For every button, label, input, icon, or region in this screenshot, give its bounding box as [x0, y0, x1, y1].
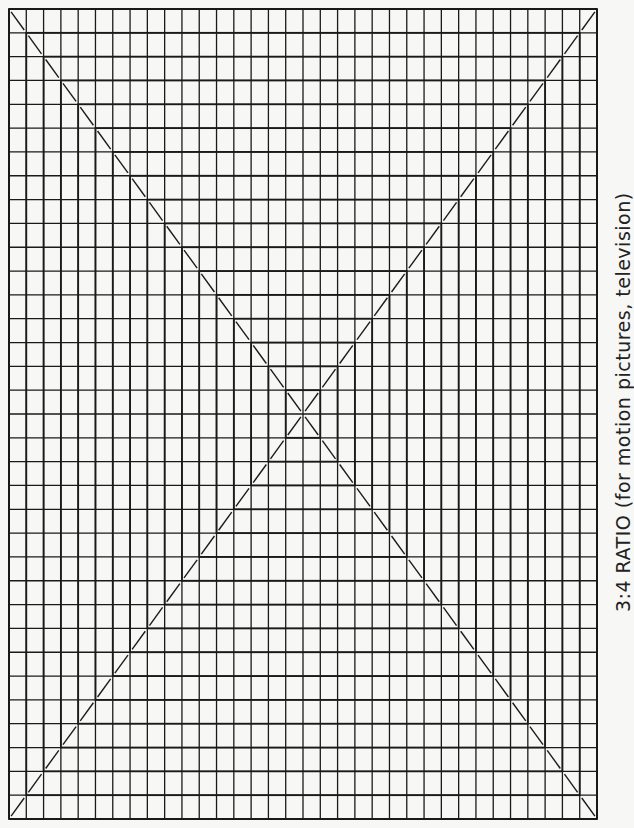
diagonal-segment — [98, 131, 111, 149]
diagonal-segment — [305, 417, 318, 435]
diagonal-segment — [495, 131, 508, 149]
grid-lines — [9, 9, 597, 819]
diagonal-segment — [115, 155, 128, 173]
diagonal-segment — [184, 250, 197, 268]
diagonal-segment — [392, 536, 405, 554]
diagonal-segment — [409, 250, 422, 268]
diagonal-segment — [270, 369, 283, 387]
diagonal-segment — [582, 798, 595, 816]
diagonal-segment — [132, 631, 145, 649]
diagonal-segment — [340, 465, 353, 483]
diagonal-segment — [443, 202, 456, 220]
diagonal-segment — [115, 655, 128, 673]
diagonal-segment — [530, 83, 543, 101]
diagonal-segment — [236, 488, 249, 506]
diagonal-segment — [219, 512, 232, 530]
diagonal-segment — [11, 798, 24, 816]
diagonal-segment — [132, 179, 145, 197]
diagonal-segment — [426, 584, 439, 602]
diagonal-segment — [426, 226, 439, 244]
diagonal-segment — [167, 226, 180, 244]
diagonal-segment — [63, 83, 76, 101]
diagonal-segment — [495, 679, 508, 697]
diagonal-segment — [98, 679, 111, 697]
diagonal-segment — [461, 631, 474, 649]
diagonal-segment — [63, 727, 76, 745]
diagonal-segment — [478, 155, 491, 173]
diagonal-segment — [184, 560, 197, 578]
diagonal-segment — [547, 750, 560, 768]
diagonal-segment — [322, 441, 335, 459]
diagonal-segment — [28, 36, 41, 54]
diagonal-segment — [201, 274, 214, 292]
diagonal-segment — [530, 727, 543, 745]
diagonal-segment — [374, 512, 387, 530]
diagonal-segment — [547, 60, 560, 78]
diagonal-segment — [167, 584, 180, 602]
diagonal-segment — [443, 607, 456, 625]
diagonal-segment — [11, 12, 24, 30]
diagonal-segment — [340, 345, 353, 363]
diagonal-segment — [461, 179, 474, 197]
diagonal-segment — [357, 488, 370, 506]
diagonal-segment — [564, 36, 577, 54]
diagonal-segment — [219, 298, 232, 316]
diagonal-segment — [149, 202, 162, 220]
ratio-caption: 3:4 RATIO (for motion pictures, televisi… — [612, 192, 634, 612]
diagonal-segment — [80, 703, 93, 721]
diagonal-segment — [46, 60, 59, 78]
diagonal-segment — [288, 417, 301, 435]
diagonal-segment — [288, 393, 301, 411]
diagonal-segment — [513, 703, 526, 721]
diagonal-segment — [28, 774, 41, 792]
diagonal-segment — [80, 107, 93, 125]
diagonal-segment — [357, 322, 370, 340]
diagonal-segment — [478, 655, 491, 673]
diagonal-segment — [201, 536, 214, 554]
diagonal-segment — [564, 774, 577, 792]
diagonal-segment — [409, 560, 422, 578]
diagonal-segment — [305, 393, 318, 411]
diagonal-segment — [582, 12, 595, 30]
diagonal-segment — [236, 322, 249, 340]
diagonal-segment — [270, 441, 283, 459]
diagonal-segment — [392, 274, 405, 292]
diagonal-segment — [253, 465, 266, 483]
diagonal-segment — [46, 750, 59, 768]
diagonal-segment — [513, 107, 526, 125]
diagonal-segment — [322, 369, 335, 387]
diagonal-segment — [374, 298, 387, 316]
diagonal-segment — [253, 345, 266, 363]
diagonal-segment — [149, 607, 162, 625]
